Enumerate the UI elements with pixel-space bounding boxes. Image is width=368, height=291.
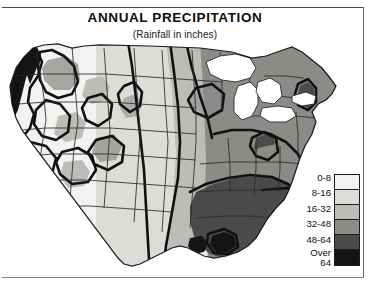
legend-swatch (335, 250, 359, 265)
legend-swatch (335, 175, 359, 190)
legend-swatch (335, 205, 359, 220)
legend-swatch-column (334, 174, 360, 266)
legend-label: 48-64 (287, 234, 331, 245)
map-title: ANNUAL PRECIPITATION (0, 10, 350, 25)
legend-label: 16-32 (287, 203, 331, 214)
legend-swatch (335, 235, 359, 250)
frame-top-rule (2, 7, 364, 8)
legend-label: 8-16 (287, 187, 331, 198)
legend-swatch (335, 220, 359, 235)
frame-right-rule (363, 7, 364, 278)
legend-swatch (335, 190, 359, 205)
map-subtitle: (Rainfall in inches) (0, 29, 350, 40)
legend-label: 0-8 (287, 172, 331, 183)
lake-erie (260, 106, 296, 122)
frame-bottom-rule (2, 277, 364, 278)
legend-label: Over 64 (287, 248, 331, 268)
contour-socal (4, 182, 34, 220)
precipitation-map-figure: ANNUAL PRECIPITATION (Rainfall in inches… (0, 0, 368, 291)
legend-label: 32-48 (287, 218, 331, 229)
map-legend: 0-8 8-16 16-32 32-48 48-64 Over 64 (296, 172, 362, 268)
